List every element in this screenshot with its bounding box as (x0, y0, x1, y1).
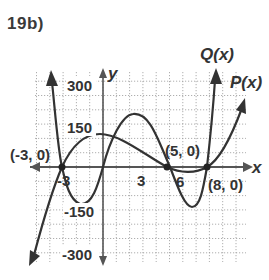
curve-p-arrow-top-icon (236, 98, 246, 114)
annotation-neg3-0: (-3, 0) (10, 146, 50, 163)
axes: x y (30, 64, 263, 266)
y-axis-label: y (107, 64, 119, 83)
y-tick-neg300: -300 (62, 246, 92, 263)
annotation-8-0: (8, 0) (208, 176, 243, 193)
point-neg3-0 (59, 164, 66, 171)
x-tick-6: 6 (176, 173, 184, 190)
curve-q-arrow-top-icon (210, 68, 222, 84)
x-axis-label: x (251, 158, 263, 177)
point-8-0 (204, 164, 211, 171)
point-5-0 (164, 164, 171, 171)
y-tick-150: 150 (67, 119, 92, 136)
annotation-5-0: (5, 0) (165, 142, 200, 159)
series-label-p: P(x) (230, 73, 262, 92)
curve-q-arrow-left-top-icon (46, 70, 58, 86)
polynomial-graph: x y 300 150 -150 -300 -3 3 6 (-3, 0) (5,… (0, 0, 269, 280)
y-tick-300: 300 (67, 77, 92, 94)
x-tick-3: 3 (137, 172, 145, 189)
x-tick-neg3: -3 (57, 172, 70, 189)
x-axis-arrow-left-icon (30, 162, 40, 172)
y-axis-arrow-up-icon (99, 68, 107, 78)
series-label-q: Q(x) (200, 45, 234, 64)
y-axis-arrow-down-icon (99, 256, 107, 266)
y-tick-neg150: -150 (64, 203, 94, 220)
